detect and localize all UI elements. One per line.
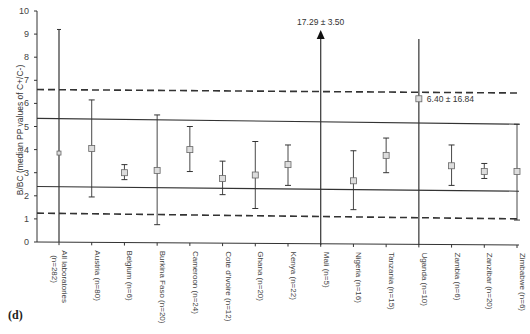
x-tick-label: Kenya (n=22) [289,252,298,301]
data-point-marker [89,145,95,151]
x-tick-label: Zanzibar (n=20) [485,253,494,310]
data-point-marker [449,163,455,169]
y-tick-label: 10 [19,6,29,16]
svg-text:Nigeria (n=16): Nigeria (n=16) [354,252,363,303]
data-point-marker [481,169,487,175]
data-point-marker [350,178,356,184]
data-point-marker [187,147,193,153]
svg-text:Cameroon (n=24): Cameroon (n=24) [191,251,200,314]
x-tick-label: Ghana (n=20) [256,251,265,301]
x-tick-label: Burkina Faso (n=20) [158,251,167,324]
x-tick-label: Mali (n=5) [322,252,331,288]
x-tick-label: All laboratories(n=282) [50,250,69,303]
x-tick-label: Uganda (n=10) [420,252,429,306]
y-axis-label: B/BC (median PP values of C+/C-) [15,40,25,220]
y-tick-label: 9 [24,29,29,39]
x-tick-label: Austria (n=80) [93,250,102,301]
svg-text:(n=282): (n=282) [50,255,59,283]
value-annotation: 6.40 ± 16.84 [427,94,474,104]
x-axis [37,242,519,245]
svg-text:Austria (n=80): Austria (n=80) [93,250,102,301]
svg-text:Zanzibar (n=20): Zanzibar (n=20) [485,253,494,310]
svg-text:Uganda (n=10): Uganda (n=10) [420,252,429,306]
svg-text:Belgium (n=6): Belgium (n=6) [125,251,134,301]
svg-text:Cote d'Ivoire (n=12): Cote d'Ivoire (n=12) [224,251,233,322]
x-tick-label: Nigeria (n=16) [354,252,363,303]
solid-reference-line [37,118,519,124]
x-tick-label: Belgium (n=6) [125,251,134,301]
svg-text:Kenya (n=22): Kenya (n=22) [289,252,298,301]
data-point-marker [416,96,422,102]
dashed-reference-line [37,213,519,219]
panel-label: (d) [8,308,23,323]
data-point-marker [154,167,160,173]
data-point-marker [57,151,61,155]
data-point-marker [383,152,389,158]
x-tick-label: Cote d'Ivoire (n=12) [224,251,233,322]
svg-text:Mali (n=5): Mali (n=5) [322,252,331,288]
x-tick-label: Tanzania (n=15) [387,252,396,310]
x-tick-label: Zimbabwe (n=6) [518,253,527,311]
data-point-marker [220,175,226,181]
svg-text:All laboratories: All laboratories [60,250,69,303]
solid-reference-line [37,187,519,192]
svg-text:Ghana (n=20): Ghana (n=20) [256,251,265,301]
data-point-marker [121,170,127,176]
data-point-marker [285,162,291,168]
x-tick-label: Zambia (n=6) [453,253,462,301]
svg-text:Burkina Faso (n=20): Burkina Faso (n=20) [158,251,167,324]
y-tick-label: 0 [24,237,29,247]
data-point-marker [514,169,520,175]
svg-text:Zimbabwe (n=6): Zimbabwe (n=6) [518,253,527,311]
svg-text:Tanzania (n=15): Tanzania (n=15) [387,252,396,310]
x-tick-label: Cameroon (n=24) [191,251,200,314]
svg-text:Zambia (n=6): Zambia (n=6) [453,253,462,301]
off-scale-arrow [317,30,325,39]
value-annotation: 17.29 ± 3.50 [297,17,344,27]
dashed-reference-line [37,90,519,93]
error-bar-chart: 012345678910All laboratories(n=282)Austr… [0,0,530,334]
data-point-marker [252,172,258,178]
